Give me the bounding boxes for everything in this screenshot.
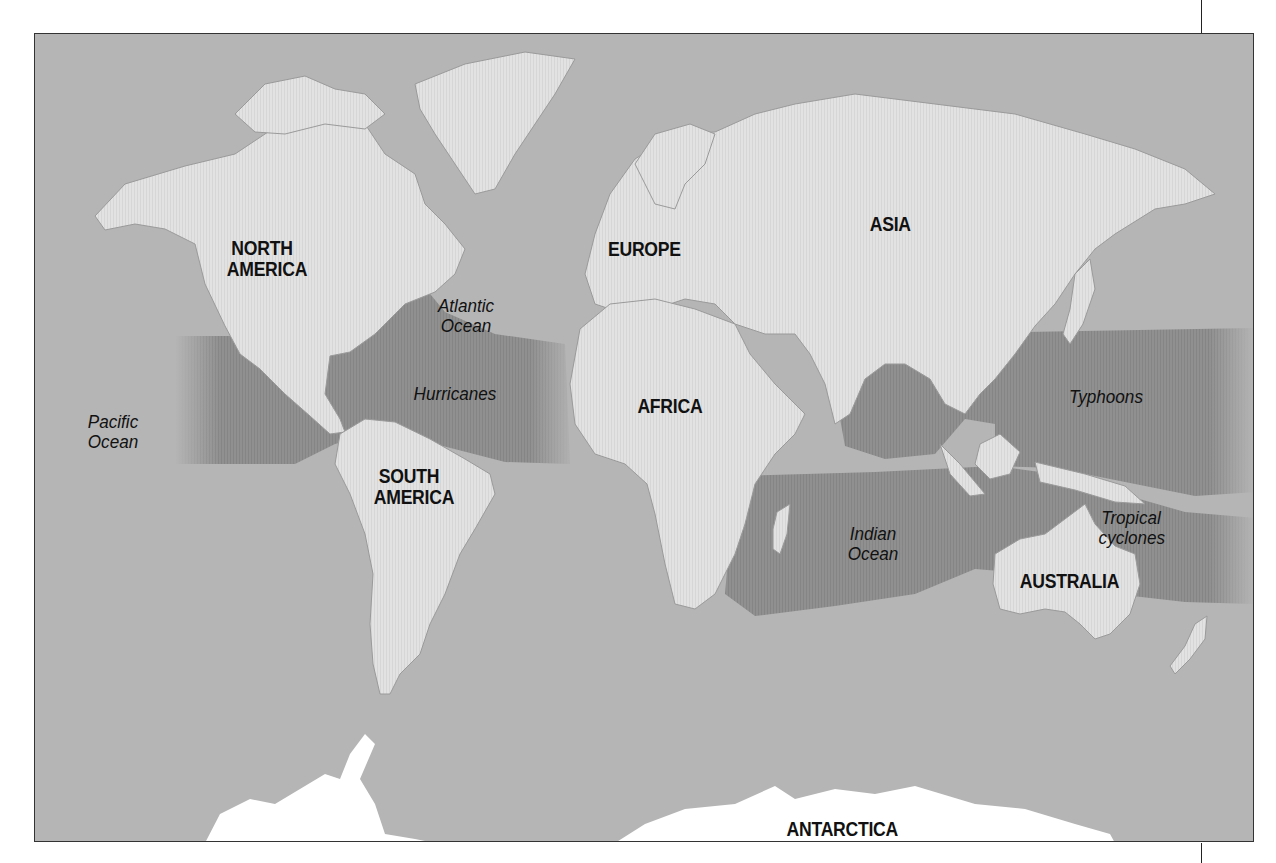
page-margin-rule-bottom (1201, 843, 1202, 863)
label-asia: ASIA (870, 214, 911, 235)
label-hurricanes: Hurricanes (414, 384, 497, 404)
world-map-frame: NORTH AMERICA SOUTH AMERICA EUROPE ASIA … (34, 33, 1254, 842)
label-north-america: NORTH AMERICA (227, 238, 297, 280)
label-typhoons: Typhoons (1069, 387, 1143, 407)
label-atlantic-ocean: Atlantic Ocean (435, 296, 498, 336)
landmass-greenland (415, 52, 575, 194)
label-indian-ocean: Indian Ocean (848, 524, 898, 564)
label-australia: AUSTRALIA (1020, 571, 1119, 592)
label-pacific-ocean: Pacific Ocean (86, 412, 140, 452)
landmass-arctic-islands (235, 76, 385, 134)
landmass-antarctica (205, 734, 1115, 842)
label-tropical-cyclones: Tropical cyclones (1099, 508, 1164, 548)
world-map-graphic (35, 34, 1254, 842)
page-margin-rule-top (1201, 0, 1202, 33)
label-south-america: SOUTH AMERICA (374, 466, 444, 508)
label-africa: AFRICA (637, 396, 702, 417)
landmass-south-america (335, 419, 495, 694)
landmass-new-zealand (1170, 616, 1207, 674)
label-antarctica: ANTARCTICA (787, 819, 898, 840)
label-europe: EUROPE (608, 239, 681, 260)
